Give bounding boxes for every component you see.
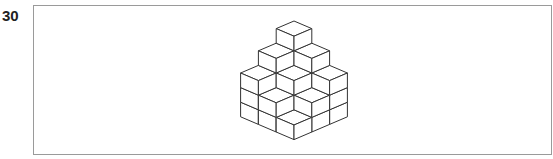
cube-stack-figure xyxy=(0,0,553,159)
